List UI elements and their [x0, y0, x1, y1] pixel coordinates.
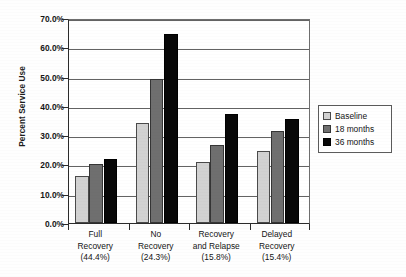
bar — [104, 159, 118, 223]
x-category-line: Recovery — [186, 229, 247, 241]
legend-item: 36 months — [323, 136, 387, 148]
bar — [164, 34, 178, 223]
chart-legend: Baseline18 months36 months — [318, 105, 392, 153]
bar — [271, 131, 285, 223]
bar-group — [136, 20, 178, 223]
x-category-line: Full — [65, 229, 126, 241]
x-category-line: Delayed — [247, 229, 308, 241]
bar — [75, 176, 89, 223]
legend-swatch-icon — [323, 138, 331, 146]
bar — [136, 123, 150, 223]
plot-area — [68, 19, 310, 224]
x-category-line: and Relapse — [186, 241, 247, 253]
legend-item: Baseline — [323, 110, 387, 122]
bar — [257, 151, 271, 223]
legend-swatch-icon — [323, 125, 331, 133]
bar — [89, 164, 103, 223]
x-category-percent: (15.8%) — [186, 252, 247, 264]
legend-label: 18 months — [335, 124, 374, 134]
x-category-label: Recoveryand Relapse(15.8%) — [186, 229, 247, 264]
bar — [150, 79, 164, 223]
bar — [225, 114, 239, 223]
bar — [285, 119, 299, 223]
x-category-label: NoRecovery(24.3%) — [126, 229, 187, 264]
bar — [196, 162, 210, 223]
legend-swatch-icon — [323, 112, 331, 120]
legend-label: Baseline — [335, 111, 367, 121]
bar-group — [196, 20, 238, 223]
x-category-label: FullRecovery(44.4%) — [65, 229, 126, 264]
x-category-percent: (44.4%) — [65, 252, 126, 264]
bar-group — [75, 20, 117, 223]
bar-group — [257, 20, 299, 223]
bar — [210, 145, 224, 223]
bar-chart-figure: Percent Service Use 70.0%60.0%50.0%40.0%… — [0, 0, 406, 277]
x-category-line: Recovery — [247, 241, 308, 253]
x-category-line: Recovery — [65, 241, 126, 253]
legend-label: 36 months — [335, 137, 374, 147]
x-category-percent: (24.3%) — [126, 252, 187, 264]
legend-item: 18 months — [323, 123, 387, 135]
x-category-line: Recovery — [126, 241, 187, 253]
x-category-label: DelayedRecovery(15.4%) — [247, 229, 308, 264]
x-category-percent: (15.4%) — [247, 252, 308, 264]
x-axis-category-labels: FullRecovery(44.4%)NoRecovery(24.3%)Reco… — [68, 229, 310, 275]
y-axis-tick-marks — [0, 19, 68, 224]
x-category-line: No — [126, 229, 187, 241]
